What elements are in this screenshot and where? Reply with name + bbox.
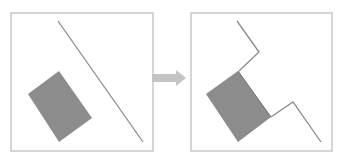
diagram-canvas bbox=[0, 0, 337, 163]
right-arrow-icon bbox=[152, 70, 186, 86]
before-frame bbox=[11, 13, 153, 151]
after-frame bbox=[191, 13, 332, 151]
after-panel bbox=[191, 13, 332, 151]
before-panel bbox=[11, 13, 153, 151]
